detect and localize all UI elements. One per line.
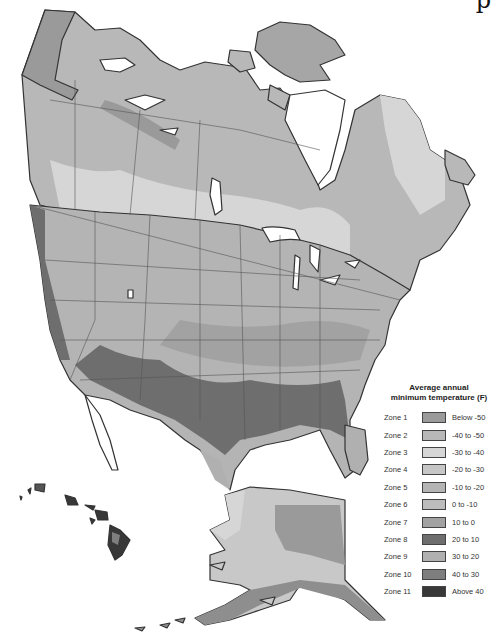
zone-label: Zone 11 <box>378 587 422 596</box>
legend-row-zone-8: Zone 8 20 to 10 <box>378 531 496 548</box>
hawaii-maui <box>95 510 108 520</box>
zone-swatch <box>422 586 446 597</box>
zone-label: Zone 3 <box>378 448 422 457</box>
zone-label: Zone 7 <box>378 518 422 527</box>
legend-title: Average annual minimum temperature (F) <box>382 383 496 403</box>
hawaii-molokai <box>85 505 95 510</box>
zone-label: Zone 8 <box>378 535 422 544</box>
zone-label: Zone 10 <box>378 570 422 579</box>
zone-label: Zone 5 <box>378 483 422 492</box>
zone-swatch <box>422 569 446 580</box>
zone-range: 40 to 30 <box>452 570 479 579</box>
zone-swatch <box>422 430 446 441</box>
hawaii-big-island <box>108 525 130 560</box>
baja-outline <box>85 395 118 470</box>
zone-label: Zone 4 <box>378 465 422 474</box>
great-salt-lake <box>128 290 133 298</box>
legend-row-zone-4: Zone 4 -20 to -30 <box>378 461 496 478</box>
zone-range: 10 to 0 <box>452 518 475 527</box>
zone-range: -20 to -30 <box>452 465 484 474</box>
hawaii-lanai <box>90 518 95 524</box>
hawaii-oahu <box>65 495 78 505</box>
map-legend: Average annual minimum temperature (F) Z… <box>378 383 496 600</box>
legend-title-line1: Average annual <box>382 383 496 393</box>
legend-rows: Zone 1 Below -50 Zone 2 -40 to -50 Zone … <box>378 409 496 600</box>
zone-range: -40 to -50 <box>452 431 484 440</box>
hawaii-kauai <box>35 484 45 492</box>
zone-label: Zone 1 <box>378 413 422 422</box>
zone-swatch <box>422 447 446 458</box>
zone-swatch <box>422 412 446 423</box>
zone-range: Below -50 <box>452 413 485 422</box>
legend-row-zone-10: Zone 10 40 to 30 <box>378 566 496 583</box>
zone-label: Zone 2 <box>378 431 422 440</box>
zone-range: 20 to 10 <box>452 535 479 544</box>
zone-swatch <box>422 464 446 475</box>
zone-swatch <box>422 499 446 510</box>
alaska-zone7 <box>195 580 385 625</box>
legend-row-zone-3: Zone 3 -30 to -40 <box>378 444 496 461</box>
zone-range: Above 40 <box>452 587 484 596</box>
zone-swatch <box>422 534 446 545</box>
zone-swatch <box>422 482 446 493</box>
zone-swatch <box>422 551 446 562</box>
legend-row-zone-5: Zone 5 -10 to -20 <box>378 479 496 496</box>
legend-row-zone-11: Zone 11 Above 40 <box>378 583 496 600</box>
zone-label: Zone 9 <box>378 552 422 561</box>
legend-row-zone-1: Zone 1 Below -50 <box>378 409 496 426</box>
zone-swatch <box>422 517 446 528</box>
legend-row-zone-6: Zone 6 0 to -10 <box>378 496 496 513</box>
cropped-page-heading: p <box>476 0 491 14</box>
legend-row-zone-9: Zone 9 30 to 20 <box>378 548 496 565</box>
zone-range: 0 to -10 <box>452 500 477 509</box>
legend-row-zone-2: Zone 2 -40 to -50 <box>378 426 496 443</box>
zone-range: -30 to -40 <box>452 448 484 457</box>
legend-row-zone-7: Zone 7 10 to 0 <box>378 513 496 530</box>
arctic-islands <box>255 22 345 82</box>
zone-range: -10 to -20 <box>452 483 484 492</box>
zone-range: 30 to 20 <box>452 552 479 561</box>
newfoundland <box>445 150 475 185</box>
zone-label: Zone 6 <box>378 500 422 509</box>
legend-title-line2: minimum temperature (F) <box>382 393 496 403</box>
